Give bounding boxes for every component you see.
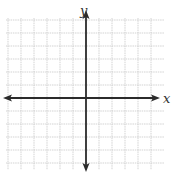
y-axis-label: y — [79, 3, 88, 18]
grid-lines — [6, 18, 164, 170]
x-axis-label: x — [163, 91, 171, 106]
axes — [3, 10, 160, 172]
coordinate-plane: x y — [0, 0, 171, 177]
